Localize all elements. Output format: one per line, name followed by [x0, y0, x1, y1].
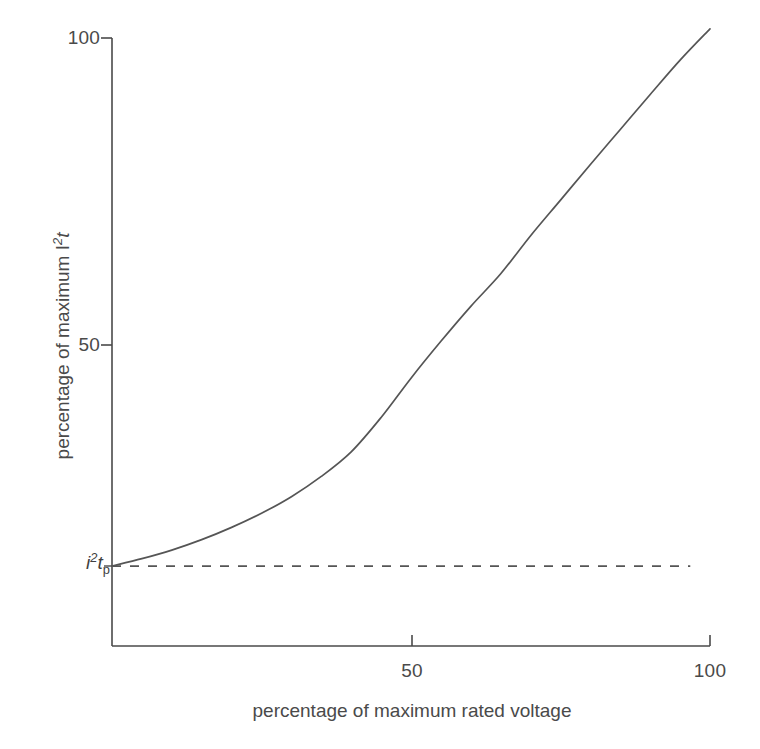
baseline-annotation-label: i2tp: [52, 552, 110, 574]
baseline-subscript: p: [103, 562, 110, 577]
y-axis-tick-label-50: 50: [44, 334, 100, 356]
plot-area: [0, 0, 760, 749]
y-axis-tick-label-100: 100: [44, 27, 100, 49]
chart-figure: 100 50 50 100 i2tp percentage of maximum…: [0, 0, 760, 749]
x-axis-tick-label-50: 50: [382, 660, 442, 682]
x-axis-tick-label-100: 100: [680, 660, 740, 682]
baseline-superscript: 2: [90, 550, 97, 565]
i2t-curve-line: [112, 29, 710, 566]
x-axis-title: percentage of maximum rated voltage: [112, 700, 712, 722]
